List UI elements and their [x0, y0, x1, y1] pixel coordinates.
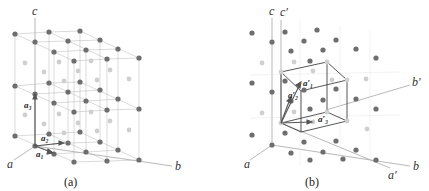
panel-a: a₃ a₂ a₁ c a b (a)	[7, 4, 181, 189]
axis-a-prime-label: a′	[388, 168, 397, 182]
vector-a1-label: a₁	[36, 149, 44, 159]
vector-a2-label: a₂	[41, 133, 49, 143]
axis-c-prime-label: c′	[280, 5, 288, 19]
caption-a: (a)	[64, 175, 77, 189]
axis-a-label: a	[244, 157, 250, 171]
axis-c-label: c	[32, 4, 38, 18]
caption-b: (b)	[305, 175, 319, 189]
axis-c-label: c	[269, 4, 275, 18]
vector-a3-prime-label: a′₃	[318, 114, 328, 124]
lattice-diagram: a₃ a₂ a₁ c a b (a)	[0, 0, 429, 191]
axis-b-label: b	[413, 159, 419, 173]
vector-a3-label: a₃	[24, 100, 32, 110]
panel-b: a′₁ a′₂ a′₃ c c′ a b a′ b′ (b)	[244, 4, 421, 189]
vector-a2-prime-label: a′₂	[288, 90, 298, 100]
vector-a1-prime-label: a′₁	[303, 78, 313, 88]
axis-b-label: b	[175, 159, 181, 173]
axis-a-label: a	[7, 157, 13, 171]
axis-b-prime-label: b′	[412, 75, 421, 89]
